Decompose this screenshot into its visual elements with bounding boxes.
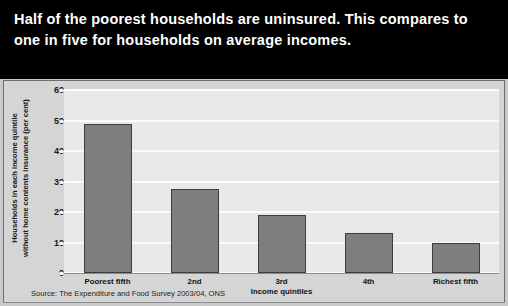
bar (171, 189, 219, 273)
headline-band: Half of the poorest households are unins… (0, 0, 508, 79)
plot-area (64, 90, 499, 273)
y-axis-title-text: Households in each income quintile witho… (9, 80, 31, 276)
source-note: Source: The Expenditure and Food Survey … (31, 289, 225, 298)
x-axis-tick-label: Richest fifth (412, 277, 499, 286)
bar (432, 243, 480, 273)
gridline (64, 89, 499, 91)
y-axis-ticks: 0102030405060 (34, 90, 64, 273)
chart-screenshot: Half of the poorest households are unins… (0, 0, 508, 306)
y-axis-tick-mark (59, 181, 64, 184)
y-axis-tick-mark (59, 120, 64, 123)
x-axis-tick-label: 4th (325, 277, 412, 286)
bottom-divider (3, 302, 505, 303)
bar (345, 233, 393, 273)
bar (258, 215, 306, 273)
y-axis-tick-mark (59, 242, 64, 245)
chart-figure: Households in each income quintile witho… (3, 80, 505, 303)
y-axis-tick-mark (59, 89, 64, 92)
headline-text: Half of the poorest households are unins… (14, 9, 494, 51)
x-axis-tick-label: Poorest fifth (64, 277, 151, 286)
y-axis-tick-mark (59, 211, 64, 214)
bar (84, 124, 132, 273)
y-axis-title: Households in each income quintile witho… (4, 87, 36, 282)
x-axis-tick-label: 3rd (238, 277, 325, 286)
x-axis-line (64, 273, 499, 274)
gridline (64, 120, 499, 122)
x-axis-tick-label: 2nd (151, 277, 238, 286)
y-axis-tick-mark (59, 150, 64, 153)
